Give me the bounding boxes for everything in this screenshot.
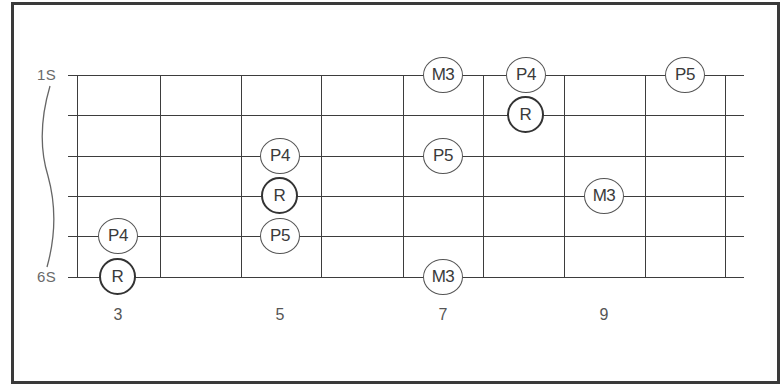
interval-note-marker: P4	[506, 57, 546, 93]
fret-line	[645, 75, 646, 278]
fret-line	[241, 75, 242, 278]
interval-note-marker: M3	[423, 259, 463, 295]
fretboard: 1S6S3579M3P4P5RP4P5RM3P4P5RM3	[0, 0, 783, 389]
string-line-6	[68, 277, 744, 278]
fret-line	[403, 75, 404, 278]
interval-note-marker: P4	[260, 138, 300, 174]
fret-line	[725, 75, 726, 278]
string-line-1	[68, 75, 744, 76]
string-label-1: 1S	[37, 67, 56, 83]
string-line-5	[68, 236, 744, 237]
string-label-6: 6S	[37, 269, 56, 285]
fret-number-9: 9	[589, 306, 619, 324]
string-range-brace	[0, 0, 783, 389]
fret-line	[483, 75, 484, 278]
string-line-4	[68, 196, 744, 197]
string-line-3	[68, 156, 744, 157]
root-note-marker: R	[261, 177, 298, 214]
interval-note-marker: P5	[260, 218, 300, 254]
interval-note-marker: M3	[423, 57, 463, 93]
fret-number-3: 3	[103, 306, 133, 324]
interval-note-marker: M3	[584, 178, 624, 214]
fret-line	[77, 75, 78, 278]
interval-note-marker: P4	[98, 218, 138, 254]
fret-number-7: 7	[428, 306, 458, 324]
fret-line	[564, 75, 565, 278]
fret-number-5: 5	[265, 306, 295, 324]
fret-line	[160, 75, 161, 278]
interval-note-marker: P5	[423, 138, 463, 174]
root-note-marker: R	[507, 96, 544, 133]
root-note-marker: R	[99, 258, 136, 295]
string-line-2	[68, 115, 744, 116]
fret-line	[321, 75, 322, 278]
interval-note-marker: P5	[665, 57, 705, 93]
